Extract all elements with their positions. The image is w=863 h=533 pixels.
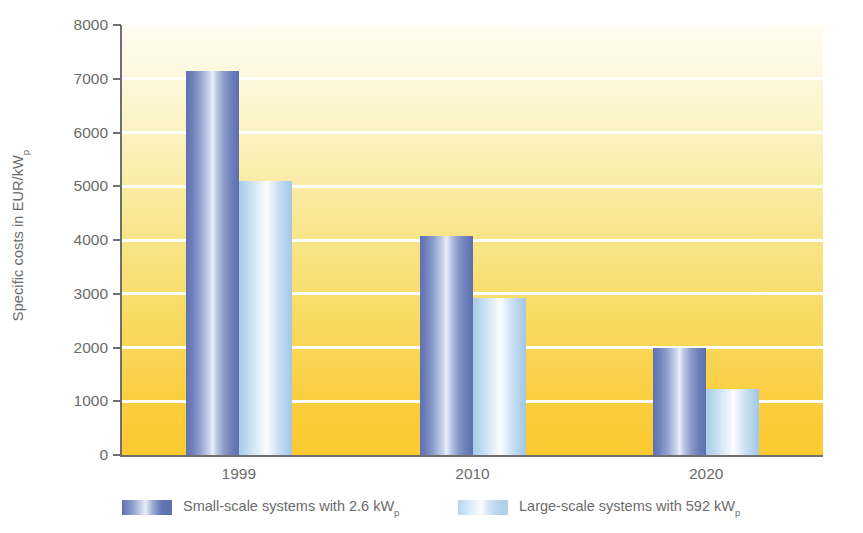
legend-label-subscript-2: p xyxy=(735,507,740,518)
y-axis-tick-label: 7000 xyxy=(74,70,108,88)
legend-label-2: Large-scale systems with 592 kWp xyxy=(519,498,740,517)
bar-2010-series-2 xyxy=(473,298,526,455)
y-axis-tick-label: 6000 xyxy=(74,124,108,142)
plot-frame: 010002000300040005000600070008000 199920… xyxy=(122,25,823,455)
y-axis-tick-mark xyxy=(113,347,121,349)
y-axis-tick-mark xyxy=(113,185,121,187)
y-axis-tick-mark xyxy=(113,400,121,402)
bar-2020-series-1 xyxy=(653,348,706,456)
legend-label-subscript-1: p xyxy=(394,507,399,518)
legend-item-2[interactable]: Large-scale systems with 592 kWp xyxy=(458,494,740,520)
legend-label-1: Small-scale systems with 2.6 kWp xyxy=(183,498,399,517)
legend-label-text-2: Large-scale systems with 592 kW xyxy=(519,498,735,514)
x-axis-tick-label-2010: 2010 xyxy=(455,465,489,483)
y-axis-tick-label: 2000 xyxy=(74,339,108,357)
y-axis-tick-mark xyxy=(113,132,121,134)
legend-swatch-2 xyxy=(458,500,508,515)
x-axis-tick-label-1999: 1999 xyxy=(222,465,256,483)
legend-item-1[interactable]: Small-scale systems with 2.6 kWp xyxy=(122,494,399,520)
y-axis-title-subscript: p xyxy=(20,149,31,154)
legend-label-text-1: Small-scale systems with 2.6 kW xyxy=(183,498,394,514)
x-axis-tick-label-2020: 2020 xyxy=(689,465,723,483)
plot-area xyxy=(122,25,823,455)
x-axis-line xyxy=(120,455,823,457)
y-axis-title-text: Specific costs in EUR/kW xyxy=(11,155,27,321)
y-axis-tick-label: 1000 xyxy=(74,392,108,410)
legend: Small-scale systems with 2.6 kWpLarge-sc… xyxy=(122,494,823,520)
y-axis-tick-mark xyxy=(113,78,121,80)
y-axis-tick-mark xyxy=(113,454,121,456)
y-axis-tick-label: 0 xyxy=(99,446,108,464)
bar-chart-figure: Specific costs in EUR/kWp 01000200030004… xyxy=(0,0,863,533)
bar-1999-series-2 xyxy=(239,181,292,455)
y-axis-tick-mark xyxy=(113,293,121,295)
y-axis-tick-label: 8000 xyxy=(74,16,108,34)
y-axis-title: Specific costs in EUR/kWp xyxy=(11,149,30,320)
bar-1999-series-1 xyxy=(186,71,239,455)
y-axis-title-container: Specific costs in EUR/kWp xyxy=(0,0,40,470)
y-axis-tick-label: 4000 xyxy=(74,231,108,249)
bar-2020-series-2 xyxy=(706,389,759,455)
y-axis-tick-label: 3000 xyxy=(74,285,108,303)
legend-swatch-1 xyxy=(122,500,172,515)
y-axis-tick-mark xyxy=(113,239,121,241)
y-axis-tick-mark xyxy=(113,24,121,26)
y-axis-tick-label: 5000 xyxy=(74,177,108,195)
bar-2010-series-1 xyxy=(420,236,473,455)
